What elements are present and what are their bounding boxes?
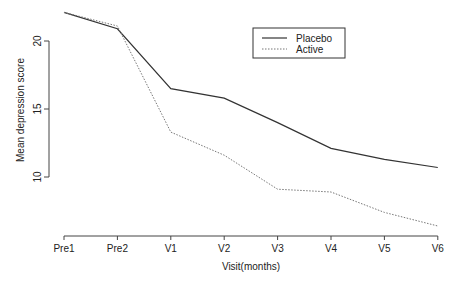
line-chart: 101520 Pre1Pre2V1V2V3V4V5V6 Placebo Acti… [0, 0, 459, 283]
x-axis-label: Visit(months) [222, 261, 280, 272]
y-tick-label: 10 [32, 171, 43, 183]
x-tick-label: Pre2 [107, 243, 129, 254]
x-axis: Pre1Pre2V1V2V3V4V5V6 [53, 236, 444, 254]
y-axis-label: Mean depression score [15, 58, 26, 162]
legend: Placebo Active [253, 28, 345, 58]
x-tick-label: V4 [325, 243, 338, 254]
series-line-placebo [64, 12, 438, 167]
y-axis: 101520 [32, 35, 49, 183]
x-tick-label: V1 [165, 243, 178, 254]
y-tick-label: 15 [32, 103, 43, 115]
x-tick-label: V2 [218, 243, 231, 254]
legend-label-active: Active [296, 44, 324, 55]
x-tick-label: Pre1 [53, 243, 75, 254]
series-line-active [64, 12, 438, 226]
x-tick-label: V6 [432, 243, 445, 254]
y-tick-label: 20 [32, 35, 43, 47]
legend-label-placebo: Placebo [296, 33, 333, 44]
x-tick-label: V5 [378, 243, 391, 254]
x-tick-label: V3 [271, 243, 284, 254]
series-layer [64, 12, 438, 226]
